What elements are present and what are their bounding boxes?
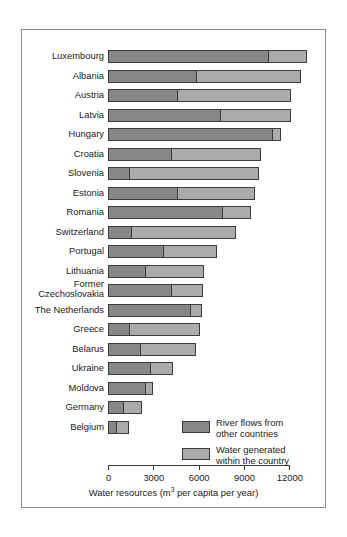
bar-segment-river-flows bbox=[109, 149, 171, 160]
stacked-bar bbox=[108, 323, 200, 336]
category-label: Portugal bbox=[22, 246, 104, 256]
x-axis-tick-label: 9000 bbox=[234, 472, 255, 483]
bar-segment-river-flows bbox=[109, 324, 129, 335]
category-label: Greece bbox=[22, 324, 104, 334]
chart-row: Portugal bbox=[22, 245, 327, 258]
bar-segment-water-generated bbox=[222, 207, 250, 218]
bar-segment-river-flows bbox=[109, 51, 268, 62]
bar-segment-divider bbox=[222, 207, 223, 218]
bar-segment-divider bbox=[171, 285, 172, 296]
bar-segment-river-flows bbox=[109, 344, 140, 355]
category-label: Lithuania bbox=[22, 266, 104, 276]
x-axis-tick-label: 3000 bbox=[143, 472, 164, 483]
bar-segment-river-flows bbox=[109, 110, 220, 121]
bar-segment-river-flows bbox=[109, 266, 145, 277]
category-label: Germany bbox=[22, 402, 104, 412]
chart-row: Hungary bbox=[22, 128, 327, 141]
bar-segment-river-flows bbox=[109, 90, 177, 101]
category-label: The Netherlands bbox=[22, 305, 104, 315]
category-label: FormerCzechoslovakia bbox=[22, 279, 104, 298]
bar-segment-divider bbox=[123, 402, 124, 413]
category-label: Croatia bbox=[22, 149, 104, 159]
bar-segment-divider bbox=[268, 51, 269, 62]
bar-segment-river-flows bbox=[109, 227, 131, 238]
bar-segment-divider bbox=[177, 90, 178, 101]
bar-segment-water-generated bbox=[272, 129, 281, 140]
bar-segment-divider bbox=[196, 71, 197, 82]
chart-row: Luxembourg bbox=[22, 50, 327, 63]
stacked-bar bbox=[108, 206, 251, 219]
chart-row: Estonia bbox=[22, 187, 327, 200]
stacked-bar bbox=[108, 70, 301, 83]
bar-segment-water-generated bbox=[220, 110, 290, 121]
bar-segment-river-flows bbox=[109, 129, 272, 140]
chart-row: Lithuania bbox=[22, 265, 327, 278]
stacked-bar bbox=[108, 421, 129, 434]
figure-canvas: LuxembourgAlbaniaAustriaLatviaHungaryCro… bbox=[0, 0, 347, 537]
bar-segment-river-flows bbox=[109, 285, 171, 296]
stacked-bar bbox=[108, 187, 255, 200]
legend-swatch bbox=[182, 448, 210, 460]
chart-row: Germany bbox=[22, 401, 327, 414]
bar-segment-river-flows bbox=[109, 71, 196, 82]
x-axis-tick-label: 6000 bbox=[189, 472, 210, 483]
legend-item: Water generatedwithin the country bbox=[182, 446, 322, 468]
category-label: Belarus bbox=[22, 344, 104, 354]
bar-segment-water-generated bbox=[177, 90, 290, 101]
bar-segment-water-generated bbox=[129, 168, 258, 179]
legend-label: Water generatedwithin the country bbox=[216, 445, 289, 466]
bar-segment-river-flows bbox=[109, 363, 150, 374]
bar-segment-water-generated bbox=[171, 285, 202, 296]
category-label: Slovenia bbox=[22, 168, 104, 178]
bar-segment-divider bbox=[171, 149, 172, 160]
bar-segment-water-generated bbox=[123, 402, 142, 413]
category-label: Ukraine bbox=[22, 363, 104, 373]
bar-segment-divider bbox=[145, 266, 146, 277]
chart-row: Moldova bbox=[22, 382, 327, 395]
bar-segment-divider bbox=[190, 305, 191, 316]
bar-segment-divider bbox=[129, 324, 130, 335]
category-label: Albania bbox=[22, 71, 104, 81]
bar-segment-water-generated bbox=[116, 422, 128, 433]
stacked-bar bbox=[108, 148, 261, 161]
legend-label: River flows fromother countries bbox=[216, 418, 283, 439]
chart-row: Slovenia bbox=[22, 167, 327, 180]
stacked-bar bbox=[108, 109, 291, 122]
chart-row: Romania bbox=[22, 206, 327, 219]
stacked-bar bbox=[108, 265, 204, 278]
legend-item: River flows fromother countries bbox=[182, 419, 322, 441]
bar-segment-divider bbox=[116, 422, 117, 433]
chart-row: FormerCzechoslovakia bbox=[22, 284, 327, 297]
bar-segment-divider bbox=[145, 383, 146, 394]
stacked-bar bbox=[108, 382, 153, 395]
bar-segment-divider bbox=[220, 110, 221, 121]
bar-segment-water-generated bbox=[145, 383, 153, 394]
category-label: Switzerland bbox=[22, 227, 104, 237]
category-label: Romania bbox=[22, 207, 104, 217]
stacked-bar bbox=[108, 304, 202, 317]
chart-row: Croatia bbox=[22, 148, 327, 161]
bar-segment-divider bbox=[129, 168, 130, 179]
category-label: Moldova bbox=[22, 383, 104, 393]
bar-segment-water-generated bbox=[171, 149, 260, 160]
chart-row: Belarus bbox=[22, 343, 327, 356]
chart-row: Switzerland bbox=[22, 226, 327, 239]
bar-segment-river-flows bbox=[109, 188, 177, 199]
stacked-bar bbox=[108, 362, 173, 375]
bar-segment-water-generated bbox=[131, 227, 235, 238]
chart-frame: LuxembourgAlbaniaAustriaLatviaHungaryCro… bbox=[21, 29, 326, 508]
bar-segment-water-generated bbox=[129, 324, 199, 335]
bar-segment-river-flows bbox=[109, 422, 116, 433]
bar-segment-water-generated bbox=[163, 246, 216, 257]
chart-row: The Netherlands bbox=[22, 304, 327, 317]
x-axis-tick-label: 0 bbox=[106, 472, 111, 483]
bar-segment-river-flows bbox=[109, 246, 163, 257]
stacked-bar bbox=[108, 89, 291, 102]
chart-row: Latvia bbox=[22, 109, 327, 122]
legend-swatch bbox=[182, 421, 210, 433]
chart-row: Albania bbox=[22, 70, 327, 83]
category-label: Hungary bbox=[22, 129, 104, 139]
bar-segment-divider bbox=[163, 246, 164, 257]
chart-row: Austria bbox=[22, 89, 327, 102]
x-axis-tick-label: 12000 bbox=[277, 472, 303, 483]
